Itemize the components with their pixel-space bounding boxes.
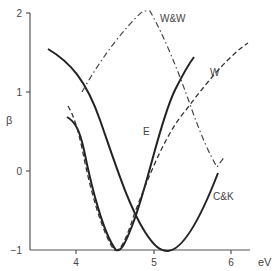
x-tick-6: 6 <box>228 257 234 268</box>
y-tick-1: 1 <box>16 87 22 98</box>
y-tick-2: 2 <box>16 8 22 19</box>
x-axis-label: eV <box>258 256 272 268</box>
curve-w <box>68 43 248 250</box>
beta-vs-energy-chart: 2 1 0 −1 β 4 5 6 eV W&W W E C&K <box>0 0 279 271</box>
x-tick-4: 4 <box>73 257 79 268</box>
label-ck: C&K <box>213 191 234 202</box>
y-tick-0: 0 <box>16 166 22 177</box>
y-tick-minus-1: −1 <box>11 245 23 256</box>
label-w: W <box>210 67 220 78</box>
curve-ww <box>82 11 225 167</box>
curve-e <box>67 57 194 250</box>
label-e: E <box>143 126 150 137</box>
y-axis: 2 1 0 −1 β <box>6 8 30 256</box>
y-axis-label: β <box>6 114 12 126</box>
x-axis: 4 5 6 eV <box>30 250 272 268</box>
label-ww: W&W <box>160 13 186 24</box>
x-tick-5: 5 <box>151 257 157 268</box>
